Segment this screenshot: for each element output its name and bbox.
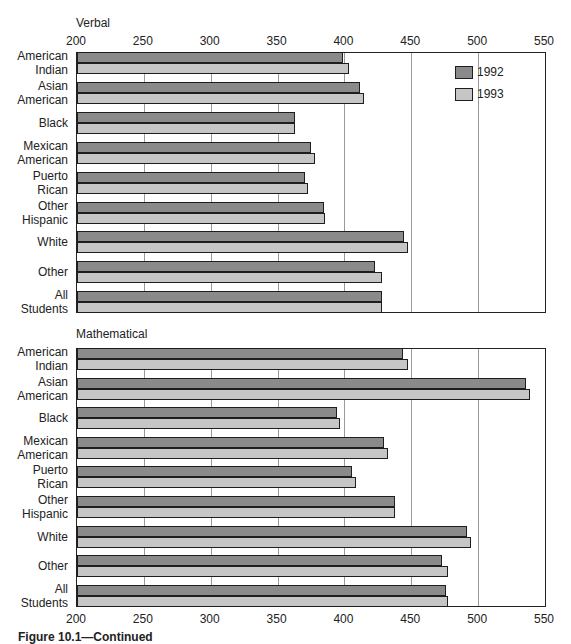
verbal-panel-title: Verbal (76, 16, 110, 30)
legend-label-1993: 1993 (477, 87, 504, 101)
bar-asian-american-1993 (77, 93, 364, 104)
bar-mexican-american-1992 (77, 142, 311, 153)
category-label-mexican-american: MexicanAmerican (0, 434, 68, 462)
category-label-mexican-american: MexicanAmerican (0, 139, 68, 167)
category-label-line: White (0, 235, 68, 249)
category-label-line: American (0, 389, 68, 403)
bar-black-1993 (77, 123, 295, 134)
bar-other-1993 (77, 566, 448, 577)
category-label-line: Indian (0, 359, 68, 373)
bar-black-1992 (77, 407, 337, 418)
bar-white-1993 (77, 537, 471, 548)
bar-mexican-american-1993 (77, 448, 388, 459)
bar-all-students-1993 (77, 302, 382, 313)
category-label-line: White (0, 530, 68, 544)
category-label-line: Puerto (0, 463, 68, 477)
x-tick-label-450: 450 (400, 34, 420, 48)
category-label-black: Black (0, 411, 68, 425)
legend-label-1992: 1992 (477, 65, 504, 79)
category-label-other: Other (0, 559, 68, 573)
x-tick-label-250: 250 (133, 34, 153, 48)
x-tick-label-550: 550 (534, 34, 554, 48)
bar-other-1992 (77, 261, 375, 272)
category-label-line: Indian (0, 63, 68, 77)
gridline-450 (411, 53, 412, 312)
x-tick-label-500: 500 (467, 612, 487, 626)
category-label-asian-american: AsianAmerican (0, 375, 68, 403)
category-label-line: American (0, 93, 68, 107)
category-label-american-indian: AmericanIndian (0, 345, 68, 373)
category-label-line: Mexican (0, 434, 68, 448)
category-label-line: Students (0, 596, 68, 610)
bar-other-hispanic-1993 (77, 213, 325, 224)
category-label-line: Hispanic (0, 507, 68, 521)
bar-puerto-rican-1993 (77, 477, 356, 488)
x-tick-label-350: 350 (267, 34, 287, 48)
bar-all-students-1993 (77, 596, 448, 607)
category-label-line: Asian (0, 79, 68, 93)
category-label-line: Other (0, 265, 68, 279)
category-label-asian-american: AsianAmerican (0, 79, 68, 107)
category-label-white: White (0, 235, 68, 249)
category-label-all-students: AllStudents (0, 582, 68, 610)
bar-other-1993 (77, 272, 382, 283)
bar-white-1992 (77, 231, 404, 242)
x-tick-label-200: 200 (66, 612, 86, 626)
bar-puerto-rican-1992 (77, 172, 305, 183)
bar-other-1992 (77, 555, 442, 566)
category-label-line: American (0, 345, 68, 359)
category-label-puerto-rican: PuertoRican (0, 463, 68, 491)
bar-american-indian-1992 (77, 348, 403, 359)
x-tick-label-450: 450 (400, 612, 420, 626)
legend-item-1993: 1993 (455, 87, 504, 101)
bar-black-1993 (77, 418, 340, 429)
bar-puerto-rican-1992 (77, 466, 352, 477)
legend-item-1992: 1992 (455, 65, 504, 79)
category-label-line: Students (0, 302, 68, 316)
category-label-line: Other (0, 493, 68, 507)
bar-black-1992 (77, 112, 295, 123)
x-tick-label-550: 550 (534, 612, 554, 626)
bar-mexican-american-1992 (77, 437, 384, 448)
category-label-line: All (0, 288, 68, 302)
category-label-line: Asian (0, 375, 68, 389)
category-label-line: Black (0, 116, 68, 130)
bar-asian-american-1992 (77, 82, 360, 93)
category-label-black: Black (0, 116, 68, 130)
category-label-line: Puerto (0, 169, 68, 183)
bar-all-students-1992 (77, 585, 446, 596)
category-label-white: White (0, 530, 68, 544)
legend-swatch-1993 (455, 88, 473, 101)
category-label-line: Rican (0, 477, 68, 491)
bar-mexican-american-1993 (77, 153, 315, 164)
category-label-line: American (0, 153, 68, 167)
x-tick-label-400: 400 (333, 612, 353, 626)
math-plot-area (76, 348, 546, 607)
bar-american-indian-1993 (77, 359, 408, 370)
bar-other-hispanic-1992 (77, 496, 395, 507)
category-label-other-hispanic: OtherHispanic (0, 493, 68, 521)
category-label-line: Black (0, 411, 68, 425)
category-label-all-students: AllStudents (0, 288, 68, 316)
bar-american-indian-1993 (77, 63, 349, 74)
bar-white-1993 (77, 242, 408, 253)
x-tick-label-300: 300 (200, 612, 220, 626)
category-label-line: American (0, 448, 68, 462)
figure-caption: Figure 10.1—Continued (18, 630, 153, 644)
bar-other-hispanic-1993 (77, 507, 395, 518)
category-label-puerto-rican: PuertoRican (0, 169, 68, 197)
math-panel-title: Mathematical (76, 327, 147, 341)
x-tick-label-250: 250 (133, 612, 153, 626)
bar-puerto-rican-1993 (77, 183, 308, 194)
category-label-american-indian: AmericanIndian (0, 49, 68, 77)
bar-asian-american-1993 (77, 389, 530, 400)
category-label-line: Mexican (0, 139, 68, 153)
x-tick-label-500: 500 (467, 34, 487, 48)
category-label-line: American (0, 49, 68, 63)
category-label-line: Rican (0, 183, 68, 197)
bar-all-students-1992 (77, 291, 382, 302)
bar-american-indian-1992 (77, 52, 343, 63)
category-label-other: Other (0, 265, 68, 279)
category-label-other-hispanic: OtherHispanic (0, 199, 68, 227)
bar-asian-american-1992 (77, 378, 526, 389)
